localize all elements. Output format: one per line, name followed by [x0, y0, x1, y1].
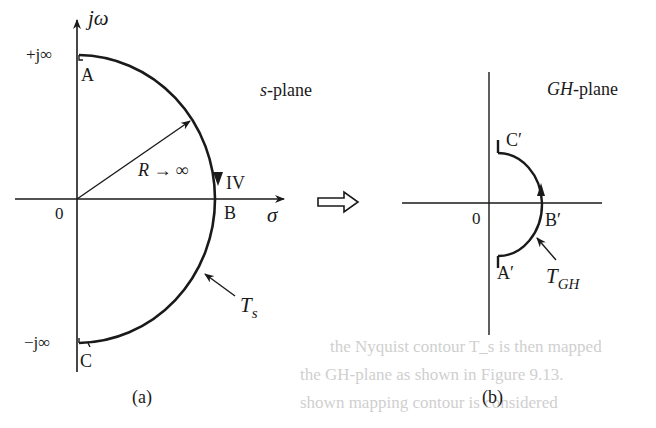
s-plane-label: s-plane [260, 80, 312, 100]
point-C-label: C [80, 351, 92, 371]
jw-axis-label: jω [85, 6, 109, 30]
maps-to-arrow [318, 192, 358, 212]
panel-b-gh-plane: GH-plane C′ 0 B′ A′ TGH (b) [402, 72, 618, 408]
nyquist-contour-diagram: the Nyquist contour T_s is then mapped t… [0, 0, 656, 428]
bleed-through-text: the Nyquist contour T_s is then mapped t… [300, 337, 602, 412]
contour-Ts-label: Ts [240, 293, 258, 321]
contour-TGH-label: TGH [546, 264, 581, 292]
ts-pointer [205, 274, 235, 296]
svg-text:shown mapping contour is consi: shown mapping contour is considered [300, 393, 558, 412]
radius-label: R → ∞ [137, 160, 189, 180]
point-B-label: B [224, 203, 236, 223]
point-C-prime-label: C′ [506, 130, 522, 150]
plus-j-infinity-label: +j∞ [26, 45, 52, 64]
tgh-pointer [537, 238, 556, 260]
svg-text:the Nyquist contour T_s is the: the Nyquist contour T_s is then mapped [330, 337, 602, 356]
origin-label-a: 0 [55, 204, 64, 223]
minus-j-infinity-label: −j∞ [24, 333, 50, 352]
point-B-prime-label: B′ [545, 210, 561, 230]
svg-text:the GH-plane as shown in Figur: the GH-plane as shown in Figure 9.13. [300, 365, 563, 384]
caption-a: (a) [132, 387, 152, 408]
gh-plane-label: GH-plane [547, 79, 618, 99]
sigma-axis-label: σ [267, 203, 279, 227]
panel-a-s-plane: jω +j∞ A s-plane R → ∞ IV 0 B σ Ts −j∞ C… [15, 6, 312, 408]
point-A-label: A [81, 65, 94, 85]
origin-label-b: 0 [472, 209, 481, 228]
point-A-prime-label: A′ [497, 263, 514, 283]
mapped-contour-arc [498, 153, 542, 256]
quadrant-IV-label: IV [226, 173, 245, 193]
caption-b: (b) [482, 387, 503, 408]
